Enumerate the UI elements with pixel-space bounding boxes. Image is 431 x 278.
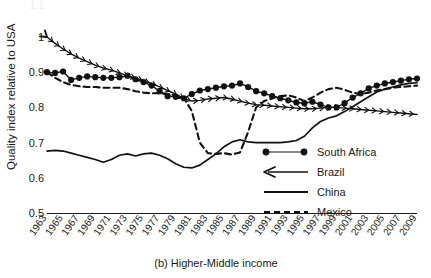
south-africa-point-marker: [285, 97, 291, 103]
south-africa-point-marker: [390, 79, 396, 85]
south-africa-point-marker: [221, 83, 227, 89]
y-axis-title: Quality index relative to USA: [5, 23, 17, 170]
south-africa-point-marker: [366, 85, 372, 91]
south-africa-point-marker: [60, 68, 66, 74]
south-africa-point-marker: [100, 75, 106, 81]
chart-canvas: 1.1 0.50.60.70.80.91 1963196519671969197…: [0, 0, 431, 278]
south-africa-point-marker: [76, 75, 82, 81]
legend-marker-dot: [301, 149, 308, 156]
south-africa-point-marker: [52, 70, 58, 76]
south-africa-point-marker: [84, 73, 90, 79]
south-africa-point-marker: [293, 99, 299, 105]
south-africa-point-marker: [406, 76, 412, 82]
south-africa-point-marker: [382, 80, 388, 86]
figure-caption: (b) Higher-Middle income: [154, 257, 278, 269]
south-africa-point-marker: [68, 77, 74, 83]
south-africa-point-marker: [245, 84, 251, 90]
legend-marker-dot: [263, 149, 270, 156]
chart-background: [0, 0, 431, 278]
y-axis-tick-0.9: 0.9: [29, 66, 44, 78]
south-africa-point-marker: [237, 80, 243, 86]
south-africa-point-marker: [205, 86, 211, 92]
y-axis-tick-0.8: 0.8: [29, 101, 44, 113]
south-africa-point-marker: [213, 85, 219, 91]
legend-label-china: China: [317, 186, 347, 198]
south-africa-point-marker: [197, 87, 203, 93]
legend-label-brazil: Brazil: [317, 166, 345, 178]
south-africa-point-marker: [350, 94, 356, 100]
south-africa-point-marker: [116, 74, 122, 80]
south-africa-point-marker: [92, 74, 98, 80]
chart-figure: 1.1 0.50.60.70.80.91 1963196519671969197…: [0, 0, 431, 278]
south-africa-point-marker: [229, 82, 235, 88]
south-africa-point-marker: [261, 90, 267, 96]
south-africa-point-marker: [398, 78, 404, 84]
south-africa-point-marker: [189, 91, 195, 97]
south-africa-point-marker: [108, 75, 114, 81]
south-africa-point-marker: [414, 75, 420, 81]
legend-label-south-africa: South Africa: [317, 146, 377, 158]
y-axis-tick-0.6: 0.6: [29, 172, 44, 184]
south-africa-point-marker: [374, 82, 380, 88]
south-africa-point-marker: [253, 88, 259, 94]
y-axis-tick-clipped: 1.1: [30, 0, 44, 11]
y-axis-tick-0.7: 0.7: [29, 137, 44, 149]
legend-label-mexico: Mexico: [317, 206, 352, 218]
